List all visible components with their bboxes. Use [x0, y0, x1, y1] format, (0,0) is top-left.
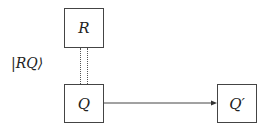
node-q-prime-label: Q′ [229, 95, 245, 113]
node-q-prime: Q′ [217, 84, 257, 123]
